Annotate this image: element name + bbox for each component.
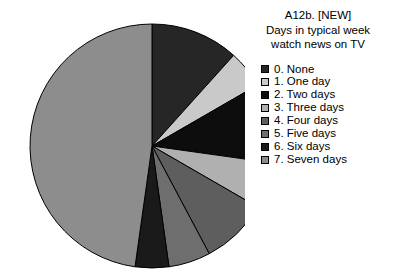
legend-swatch-icon <box>261 156 269 164</box>
legend-swatch-icon <box>261 91 269 99</box>
pie-plot-area <box>0 0 245 279</box>
legend-item[interactable]: 1. One day <box>261 75 393 88</box>
pie-slice[interactable] <box>30 24 152 267</box>
legend-item-label: 4. Four days <box>274 114 338 127</box>
legend-item[interactable]: 6. Six days <box>261 140 393 153</box>
legend-item[interactable]: 5. Five days <box>261 127 393 140</box>
legend-item[interactable]: 0. None <box>261 63 393 76</box>
legend-item-label: 3. Three days <box>274 101 344 114</box>
legend-item-label: 6. Six days <box>274 140 330 153</box>
legend-item[interactable]: 4. Four days <box>261 114 393 127</box>
legend-panel: A12b. [NEW] Days in typical week watch n… <box>243 8 393 166</box>
pie-svg <box>0 0 245 279</box>
legend-item-label: 0. None <box>274 63 314 76</box>
legend-item[interactable]: 7. Seven days <box>261 153 393 166</box>
legend-item-label: 7. Seven days <box>274 153 347 166</box>
legend-swatch-icon <box>261 104 269 112</box>
legend-item[interactable]: 2. Two days <box>261 88 393 101</box>
pie-chart-figure: A12b. [NEW] Days in typical week watch n… <box>0 0 393 279</box>
legend-swatch-icon <box>261 130 269 138</box>
chart-title: A12b. [NEW] Days in typical week watch n… <box>243 8 393 52</box>
legend-swatch-icon <box>261 143 269 151</box>
legend-item[interactable]: 3. Three days <box>261 101 393 114</box>
legend-item-label: 2. Two days <box>274 88 335 101</box>
legend-swatch-icon <box>261 65 269 73</box>
legend-swatch-icon <box>261 78 269 86</box>
legend-item-label: 1. One day <box>274 75 330 88</box>
legend-item-label: 5. Five days <box>274 127 336 140</box>
legend-swatch-icon <box>261 117 269 125</box>
legend-list: 0. None1. One day2. Two days3. Three day… <box>243 63 393 166</box>
